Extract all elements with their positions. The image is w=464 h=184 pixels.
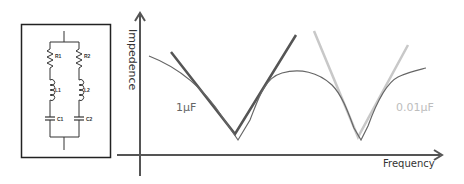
- inductor-l2-icon: [79, 80, 84, 101]
- capacitor-c2-icon: [74, 117, 84, 120]
- inductor-l1-icon: [50, 80, 55, 101]
- resistor-r2-icon: [76, 49, 82, 68]
- label-c2: C2: [86, 116, 93, 122]
- label-c1: C1: [57, 116, 64, 122]
- y-axis-label: Impedence: [126, 29, 139, 90]
- circuit-frame: [22, 25, 111, 158]
- impedance-diagram: R1 R2 L1 L2 C1 C2: [0, 0, 464, 184]
- x-axis-label: Frequency: [383, 158, 435, 169]
- cap1-label: 1μF: [176, 101, 196, 114]
- combined-impedance-curve: [149, 56, 426, 140]
- cap2-label: 0.01μF: [396, 101, 434, 114]
- label-l2: L2: [84, 87, 90, 93]
- impedance-plot: Impedence Frequency 1μF 0.01μF: [117, 13, 442, 176]
- resistor-r1-icon: [47, 49, 53, 68]
- capacitor-c1-icon: [45, 117, 55, 120]
- label-r1: R1: [55, 53, 62, 59]
- label-l1: L1: [55, 87, 61, 93]
- label-r2: R2: [84, 53, 91, 59]
- cap2-asymptote-line: [314, 31, 408, 137]
- cap1-asymptote-line: [171, 35, 296, 134]
- circuit-schematic: R1 R2 L1 L2 C1 C2: [22, 25, 111, 158]
